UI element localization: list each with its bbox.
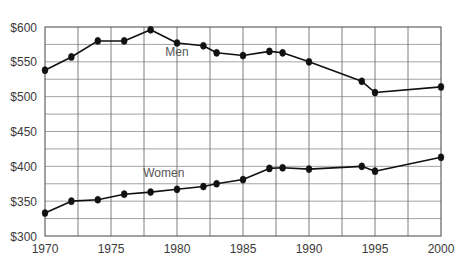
data-point-marker — [200, 42, 206, 49]
data-point-marker — [148, 189, 154, 196]
x-axis-tick-labels: 1970197519801985199019952000 — [32, 242, 455, 256]
data-point-marker — [68, 53, 74, 60]
line-chart: $300$350$400$450$500$550$600 19701975198… — [0, 0, 460, 273]
x-axis-tick-label: 1980 — [164, 242, 191, 256]
y-axis-tick-label: $400 — [10, 160, 37, 174]
y-axis-tick-labels: $300$350$400$450$500$550$600 — [10, 21, 37, 244]
data-point-marker — [280, 164, 286, 171]
data-point-marker — [266, 165, 272, 172]
y-axis-tick-label: $600 — [10, 21, 37, 35]
series-annotations: MenWomen — [143, 45, 188, 180]
data-point-marker — [200, 183, 206, 190]
data-point-marker — [240, 176, 246, 183]
data-point-marker — [359, 78, 365, 85]
data-point-marker — [359, 163, 365, 170]
data-point-marker — [174, 186, 180, 193]
data-point-marker — [280, 49, 286, 56]
x-axis-tick-label: 2000 — [428, 242, 455, 256]
x-axis-tick-label: 1975 — [98, 242, 125, 256]
data-point-marker — [148, 26, 154, 33]
y-axis-tick-label: $450 — [10, 125, 37, 139]
x-axis-tick-label: 1970 — [32, 242, 59, 256]
x-axis-tick-label: 1995 — [362, 242, 389, 256]
data-point-marker — [240, 52, 246, 59]
data-point-marker — [214, 49, 220, 56]
data-point-marker — [266, 48, 272, 55]
x-axis-tick-label: 1985 — [230, 242, 257, 256]
data-point-marker — [306, 58, 312, 65]
data-point-marker — [372, 89, 378, 96]
x-axis-tick-label: 1990 — [296, 242, 323, 256]
data-point-marker — [95, 196, 101, 203]
y-axis-tick-label: $500 — [10, 90, 37, 104]
data-point-marker — [306, 166, 312, 173]
data-point-marker — [42, 209, 48, 216]
y-axis-tick-label: $350 — [10, 195, 37, 209]
series-label-men: Men — [165, 45, 188, 59]
chart-canvas: $300$350$400$450$500$550$600 19701975198… — [0, 0, 460, 273]
data-point-marker — [372, 168, 378, 175]
data-point-marker — [95, 37, 101, 44]
data-point-marker — [438, 154, 444, 161]
series-label-women: Women — [143, 166, 184, 180]
data-point-marker — [121, 37, 127, 44]
data-point-marker — [214, 180, 220, 187]
data-point-marker — [68, 198, 74, 205]
data-point-marker — [438, 83, 444, 90]
y-axis-tick-label: $550 — [10, 55, 37, 69]
data-point-marker — [121, 191, 127, 198]
data-point-marker — [42, 67, 48, 74]
